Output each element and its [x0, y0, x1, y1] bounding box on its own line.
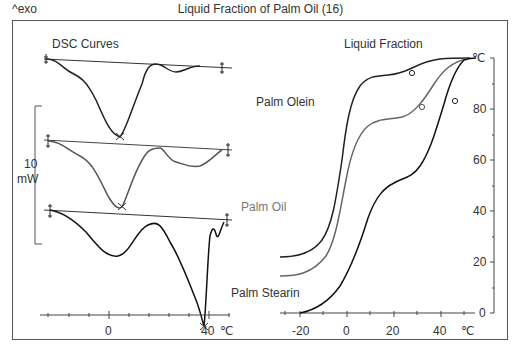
dsc-x-tick-40: 40: [201, 324, 215, 338]
dsc-x-unit: ℃: [220, 324, 233, 338]
label-palm-oil: Palm Oil: [241, 200, 286, 214]
marker-palm-stearin: [452, 98, 457, 103]
liquid-fraction-y-axis: 0 20 40 60 80 ℃: [472, 51, 494, 320]
label-palm-stearin: Palm Stearin: [231, 286, 300, 300]
dsc-x-axis: 0 40 ℃: [40, 311, 233, 338]
lf-curve-palm-stearin: [300, 58, 476, 313]
y-tick-0: 0: [479, 306, 486, 320]
chart-canvas: DSC Curves 10 mW: [0, 0, 521, 354]
dsc-x-tick-0: 0: [105, 324, 112, 338]
marker-palm-olein: [409, 70, 414, 75]
x-tick-20: 20: [386, 324, 400, 338]
x-tick-40: 40: [433, 324, 447, 338]
y-tick-60: 60: [473, 153, 487, 167]
scale-bar-unit: mW: [17, 172, 39, 186]
liquid-fraction-x-axis: -20 0 20 40 ℃: [280, 311, 475, 338]
y-tick-40: 40: [473, 204, 487, 218]
liquid-fraction-title: Liquid Fraction: [344, 37, 423, 51]
lf-curve-palm-oil: [280, 58, 470, 276]
dsc-curve-palm-oil: [44, 134, 232, 210]
x-tick-minus20: -20: [292, 324, 310, 338]
dsc-curve-palm-olein: [44, 54, 232, 140]
y-tick-80: 80: [473, 102, 487, 116]
scale-bar-value: 10: [24, 157, 38, 171]
dsc-panel-title: DSC Curves: [52, 37, 119, 51]
dsc-curve-palm-stearin: [44, 204, 232, 330]
scale-bar: 10 mW: [17, 106, 42, 244]
marker-palm-oil: [419, 104, 424, 109]
label-palm-olein: Palm Olein: [256, 95, 315, 109]
x-unit: ℃: [461, 324, 474, 338]
lf-curve-palm-olein: [280, 58, 470, 257]
y-tick-20: 20: [473, 255, 487, 269]
x-tick-0: 0: [343, 324, 350, 338]
